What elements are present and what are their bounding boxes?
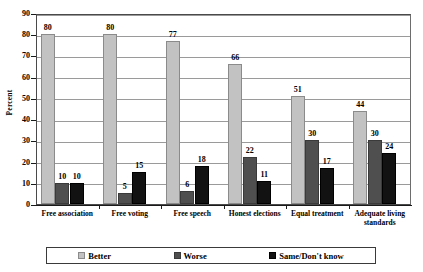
- bar-group: 77618: [166, 15, 209, 204]
- bar: [70, 183, 84, 204]
- bar-value-label: 30: [301, 130, 323, 138]
- bar: [103, 34, 117, 204]
- category-label-line: Adequate living: [341, 209, 420, 218]
- bar: [195, 166, 209, 204]
- bar: [291, 96, 305, 204]
- bar-value-label: 17: [316, 158, 338, 166]
- bar-chart: Percent 0102030405060708090 801010805157…: [0, 0, 423, 272]
- legend-swatch-icon: [269, 252, 276, 259]
- y-axis-tick-label: 0: [4, 201, 30, 209]
- y-axis-tick-label: 20: [4, 159, 30, 167]
- bar: [257, 181, 271, 204]
- y-axis-tick-label: 30: [4, 137, 30, 145]
- bar-group: 662211: [228, 15, 271, 204]
- bar-value-label: 80: [37, 24, 59, 32]
- bar-value-label: 24: [378, 143, 400, 151]
- bar: [180, 191, 194, 204]
- y-axis-tick-label: 50: [4, 95, 30, 103]
- bar-value-label: 15: [128, 162, 150, 170]
- chart-legend: BetterWorseSame/Don't know: [46, 247, 376, 264]
- y-axis-tick-label: 70: [4, 52, 30, 60]
- bar: [353, 111, 367, 204]
- bar: [320, 168, 334, 204]
- legend-swatch-icon: [174, 252, 181, 259]
- bar: [305, 140, 319, 204]
- bar: [166, 41, 180, 204]
- bar-value-label: 11: [253, 171, 275, 179]
- bar-value-label: 10: [66, 173, 88, 181]
- bar-value-label: 66: [224, 54, 246, 62]
- legend-entry[interactable]: Better: [78, 251, 111, 261]
- legend-label: Better: [88, 251, 111, 261]
- y-axis-tick-label: 60: [4, 74, 30, 82]
- bar-group: 80515: [103, 15, 146, 204]
- legend-label: Same/Don't know: [279, 251, 343, 261]
- y-axis-tick-label: 40: [4, 116, 30, 124]
- category-label-line: standards: [341, 218, 420, 227]
- bar-value-label: 80: [99, 24, 121, 32]
- x-axis-category-label: Adequate livingstandards: [341, 209, 420, 227]
- bar-group: 443024: [353, 15, 396, 204]
- bar-value-label: 77: [162, 31, 184, 39]
- legend-entry[interactable]: Worse: [174, 251, 207, 261]
- bar: [118, 193, 132, 204]
- bar-value-label: 30: [364, 130, 386, 138]
- bar-value-label: 44: [349, 101, 371, 109]
- bar-value-label: 51: [287, 86, 309, 94]
- legend-swatch-icon: [78, 252, 85, 259]
- bar: [382, 153, 396, 204]
- bar: [243, 157, 257, 204]
- legend-entry[interactable]: Same/Don't know: [269, 251, 343, 261]
- bar-group: 513017: [291, 15, 334, 204]
- legend-label: Worse: [184, 251, 207, 261]
- bar: [55, 183, 69, 204]
- y-axis-tick-label: 90: [4, 10, 30, 18]
- bar-value-label: 22: [239, 147, 261, 155]
- bar: [228, 64, 242, 204]
- bar-value-label: 18: [191, 156, 213, 164]
- bar-group: 801010: [41, 15, 84, 204]
- y-axis-tick-label: 10: [4, 180, 30, 188]
- y-axis-tick-mark: [31, 205, 36, 206]
- plot-area: 8010108051577618662211513017443024: [36, 14, 411, 205]
- y-axis-tick-label: 80: [4, 31, 30, 39]
- bar: [132, 172, 146, 204]
